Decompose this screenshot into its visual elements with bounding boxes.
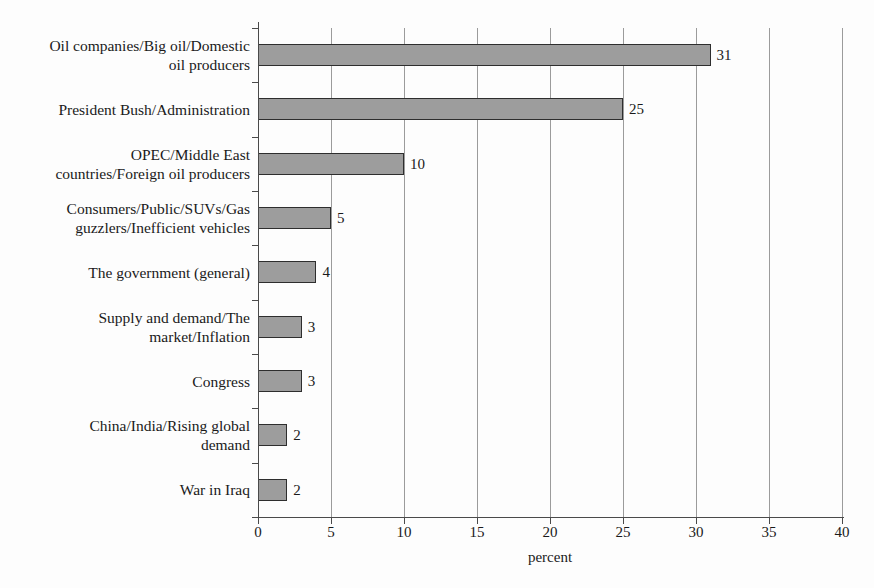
bar[interactable]	[258, 44, 711, 66]
x-axis-tick-10	[404, 517, 405, 524]
category-label-line: The government (general)	[0, 263, 250, 282]
category-label: OPEC/Middle Eastcountries/Foreign oil pr…	[0, 145, 250, 183]
category-label-line: market/Inflation	[0, 327, 250, 346]
x-axis-tick-label: 0	[238, 524, 278, 541]
category-label: Supply and demand/Themarket/Inflation	[0, 308, 250, 346]
category-label: Oil companies/Big oil/Domesticoil produc…	[0, 36, 250, 74]
category-label-line: President Bush/Administration	[0, 100, 250, 119]
plot-area: 312510543322	[258, 28, 842, 517]
category-label-line: Consumers/Public/SUVs/Gas	[0, 199, 250, 218]
y-axis-tick	[252, 463, 258, 464]
category-label-line: guzzlers/Inefficient vehicles	[0, 218, 250, 237]
category-label: Consumers/Public/SUVs/Gasguzzlers/Ineffi…	[0, 199, 250, 237]
bar-row: 25	[258, 82, 842, 136]
bar-value-label: 2	[293, 479, 301, 501]
y-axis-tick	[252, 300, 258, 301]
category-label-line: demand	[0, 435, 250, 454]
category-label: The government (general)	[0, 263, 250, 282]
bar[interactable]	[258, 261, 316, 283]
category-label: President Bush/Administration	[0, 100, 250, 119]
bar-chart-figure: 312510543322 Oil companies/Big oil/Domes…	[0, 0, 874, 588]
bar-row: 31	[258, 28, 842, 82]
x-axis-tick-label: 40	[822, 524, 862, 541]
y-axis-tick	[252, 82, 258, 83]
bar-row: 10	[258, 137, 842, 191]
bar-row: 3	[258, 354, 842, 408]
category-label-line: Congress	[0, 372, 250, 391]
bar-row: 2	[258, 463, 842, 517]
bar[interactable]	[258, 98, 623, 120]
y-axis-tick	[252, 191, 258, 192]
x-axis-tick-label: 15	[457, 524, 497, 541]
bar[interactable]	[258, 207, 331, 229]
x-axis-tick-label: 30	[676, 524, 716, 541]
y-axis-tick	[252, 408, 258, 409]
x-axis-line	[252, 517, 844, 518]
y-axis-tick	[252, 137, 258, 138]
category-label-line: countries/Foreign oil producers	[0, 164, 250, 183]
x-axis-tick-30	[696, 517, 697, 524]
category-label-line: China/India/Rising global	[0, 416, 250, 435]
x-axis-tick-label: 10	[384, 524, 424, 541]
bar[interactable]	[258, 316, 302, 338]
bar[interactable]	[258, 424, 287, 446]
bar-value-label: 3	[308, 316, 316, 338]
bar[interactable]	[258, 370, 302, 392]
bar-value-label: 4	[322, 261, 330, 283]
y-axis-tick	[252, 354, 258, 355]
bar-value-label: 10	[410, 153, 425, 175]
x-axis-tick-label: 35	[749, 524, 789, 541]
category-label: China/India/Rising globaldemand	[0, 416, 250, 454]
x-axis-tick-40	[842, 517, 843, 524]
gridline-40	[842, 28, 843, 517]
bar-row: 4	[258, 245, 842, 299]
x-axis-tick-20	[550, 517, 551, 524]
x-axis-tick-label: 20	[530, 524, 570, 541]
category-label-line: Oil companies/Big oil/Domestic	[0, 36, 250, 55]
category-label-line: War in Iraq	[0, 480, 250, 499]
bar-row: 5	[258, 191, 842, 245]
bar-value-label: 5	[337, 207, 345, 229]
bar-value-label: 31	[717, 44, 732, 66]
x-axis-tick-0	[258, 517, 259, 524]
y-axis-tick	[252, 245, 258, 246]
bar[interactable]	[258, 153, 404, 175]
category-label-line: oil producers	[0, 55, 250, 74]
bar-value-label: 25	[629, 98, 644, 120]
x-axis-tick-label: 5	[311, 524, 351, 541]
bar-value-label: 3	[308, 370, 316, 392]
y-axis-line	[258, 22, 259, 523]
bar-row: 2	[258, 408, 842, 462]
category-label-line: Supply and demand/The	[0, 308, 250, 327]
category-label-line: OPEC/Middle East	[0, 145, 250, 164]
y-axis-tick	[252, 28, 258, 29]
bar[interactable]	[258, 479, 287, 501]
x-axis-tick-35	[769, 517, 770, 524]
category-label: War in Iraq	[0, 480, 250, 499]
x-axis-title: percent	[258, 549, 842, 566]
bar-row: 3	[258, 300, 842, 354]
x-axis-tick-label: 25	[603, 524, 643, 541]
x-axis-tick-15	[477, 517, 478, 524]
category-label: Congress	[0, 372, 250, 391]
x-axis-tick-5	[331, 517, 332, 524]
x-axis-tick-25	[623, 517, 624, 524]
bar-value-label: 2	[293, 424, 301, 446]
